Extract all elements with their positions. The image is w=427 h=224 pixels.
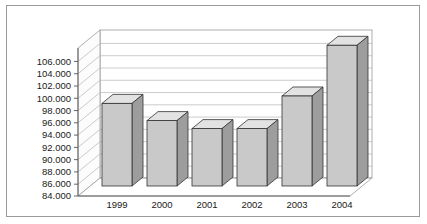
y-tick-label: 104.000 [37, 68, 71, 79]
bar-front-face [282, 96, 312, 186]
y-tick-label: 102.000 [37, 80, 71, 91]
bar-2003[interactable] [282, 87, 323, 186]
y-tick-label: 94.000 [42, 129, 71, 140]
y-axis-tick-labels: 106.000 104.000 102.000 100.000 98.000 9… [37, 56, 71, 202]
y-tick-label: 86.000 [42, 178, 71, 189]
x-tick-label-2004: 2004 [331, 199, 352, 210]
bar-front-face [327, 45, 357, 186]
bar-front-face [237, 129, 267, 186]
bar-side-face [357, 36, 368, 186]
chart-svg: 106.000 104.000 102.000 100.000 98.000 9… [0, 0, 427, 224]
x-tick-label-1999: 1999 [106, 199, 127, 210]
bar-side-face [222, 120, 233, 186]
bar-2000[interactable] [147, 112, 188, 186]
y-tick-label: 90.000 [42, 154, 71, 165]
y-tick-label: 98.000 [42, 105, 71, 116]
bar-side-face [267, 120, 278, 186]
bar-2002[interactable] [237, 120, 278, 186]
y-tick-label: 106.000 [37, 56, 71, 67]
y-tick-label: 88.000 [42, 166, 71, 177]
y-tick-label: 84.000 [42, 190, 71, 201]
bar-front-face [192, 129, 222, 186]
bar-front-face [147, 121, 177, 186]
column-chart: 106.000 104.000 102.000 100.000 98.000 9… [0, 0, 427, 224]
bar-2001[interactable] [192, 120, 233, 186]
y-axis [74, 48, 78, 196]
x-tick-label-2003: 2003 [286, 199, 307, 210]
bar-side-face [177, 112, 188, 186]
x-tick-label-2002: 2002 [241, 199, 262, 210]
x-tick-label-2001: 2001 [196, 199, 217, 210]
chart-screenshot: 106.000 104.000 102.000 100.000 98.000 9… [0, 0, 427, 224]
bar-1999[interactable] [102, 94, 143, 186]
y-tick-label: 96.000 [42, 117, 71, 128]
x-axis-tick-labels: 1999 2000 2001 2002 2003 2004 [106, 199, 352, 210]
left-side-wall [78, 30, 100, 196]
bar-front-face [102, 103, 132, 186]
bar-side-face [132, 94, 143, 186]
y-axis-ticks [74, 61, 78, 196]
y-tick-label: 100.000 [37, 93, 71, 104]
x-tick-label-2000: 2000 [151, 199, 172, 210]
bar-side-face [312, 87, 323, 186]
y-tick-label: 92.000 [42, 142, 71, 153]
bar-2004[interactable] [327, 36, 368, 186]
